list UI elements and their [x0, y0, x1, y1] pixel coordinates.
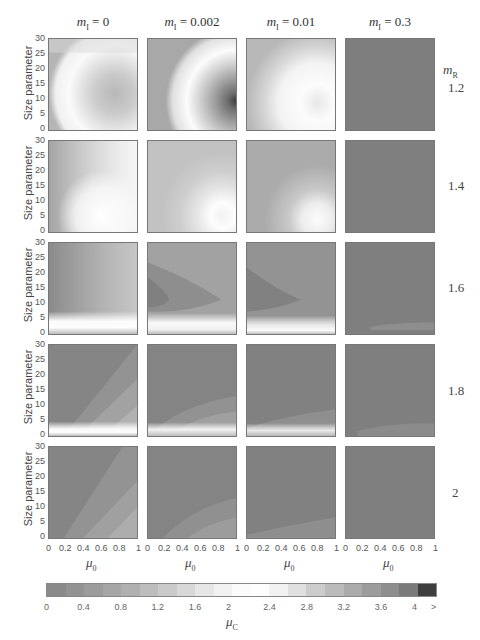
- y-tick: 10: [33, 501, 45, 511]
- x-tick: 0.8: [113, 543, 126, 553]
- m-symbol: m: [443, 62, 452, 77]
- x-tick: 0.4: [77, 543, 90, 553]
- x-tick: 1: [334, 543, 339, 553]
- contour-plot: [148, 243, 236, 334]
- panel-mr2-mi0.01: [246, 446, 336, 539]
- panel-mr1.6-mi0.01: [246, 242, 336, 335]
- column-title-mi-001: mI = 0.01: [246, 14, 336, 32]
- y-tick: 30: [33, 441, 45, 451]
- y-tick: 25: [33, 354, 45, 364]
- colorbar-swatch: [84, 584, 103, 596]
- colorbar-swatch: [103, 584, 122, 596]
- panel-mr1.6-mi0.3: [345, 242, 435, 335]
- y-tick: 15: [33, 78, 45, 88]
- y-tick: 20: [33, 63, 45, 73]
- mu-subscript: 0: [93, 564, 97, 573]
- panel-mr2-mi0.002: [147, 446, 237, 539]
- column-value: = 0.3: [381, 14, 411, 29]
- y-tick: 20: [33, 165, 45, 175]
- x-tick: 0: [244, 543, 249, 553]
- x-tick: 1: [433, 543, 438, 553]
- colorbar-swatch: [121, 584, 140, 596]
- y-tick: 20: [33, 369, 45, 379]
- panel-mr1.6-mi0.002: [147, 242, 237, 335]
- colorbar-tick: 3.2: [338, 602, 351, 612]
- x-tick: 0.6: [194, 543, 207, 553]
- colorbar-tick: 4: [412, 602, 417, 612]
- colorbar-swatch: [195, 584, 214, 596]
- colorbar-swatch: [140, 584, 159, 596]
- y-tick: 10: [33, 297, 45, 307]
- colorbar-swatch: [288, 584, 307, 596]
- contour-plot: [346, 447, 434, 538]
- y-tick: 0: [33, 225, 45, 235]
- panel-mr1.2-mi0: [48, 38, 138, 131]
- x-tick: 0.2: [356, 543, 369, 553]
- x-tick: 0.4: [374, 543, 387, 553]
- contour-plot: [346, 39, 434, 130]
- colorbar-swatch: [269, 584, 288, 596]
- colorbar-swatch: [381, 584, 400, 596]
- row-label-1-4: 1.4: [448, 178, 464, 194]
- y-tick: 10: [33, 399, 45, 409]
- contour-plot: [247, 243, 335, 334]
- colorbar-tick: 1.6: [189, 602, 202, 612]
- contour-plot: [148, 447, 236, 538]
- m-symbol: m: [164, 14, 173, 29]
- m-symbol: m: [267, 14, 276, 29]
- mu-subscript: 0: [390, 564, 394, 573]
- colorbar-swatch: [362, 584, 381, 596]
- y-tick: 15: [33, 180, 45, 190]
- y-tick: 25: [33, 150, 45, 160]
- y-tick: 30: [33, 339, 45, 349]
- x-tick: 1: [235, 543, 240, 553]
- panel-mr1.2-mi0.002: [147, 38, 237, 131]
- x-axis-label: μ0: [185, 555, 196, 573]
- y-tick: 5: [33, 210, 45, 220]
- x-tick: 0.8: [311, 543, 324, 553]
- row-label-2: 2: [452, 485, 459, 501]
- colorbar-tick: 0.4: [77, 602, 90, 612]
- contour-plot: [346, 345, 434, 436]
- contour-plot: [49, 141, 137, 232]
- row-label-1-2: 1.2: [448, 80, 464, 96]
- colorbar-swatch: [214, 584, 233, 596]
- column-value: = 0.002: [176, 14, 219, 29]
- x-tick: 0.2: [257, 543, 270, 553]
- y-tick: 5: [33, 108, 45, 118]
- colorbar-swatch: [232, 584, 251, 596]
- y-tick: 0: [33, 429, 45, 439]
- x-tick: 0.2: [158, 543, 171, 553]
- row-label-1-6: 1.6: [448, 280, 464, 296]
- x-tick: 0.4: [275, 543, 288, 553]
- colorbar-tick: 3.6: [375, 602, 388, 612]
- mr-label: mR: [443, 62, 458, 80]
- x-axis-label: μ0: [86, 555, 97, 573]
- x-tick: 1: [136, 543, 141, 553]
- panel-mr2-mi0: [48, 446, 138, 539]
- y-tick: 5: [33, 516, 45, 526]
- colorbar-tick: 2: [226, 602, 231, 612]
- panel-mr1.4-mi0.01: [246, 140, 336, 233]
- contour-plot: [247, 39, 335, 130]
- colorbar-label: μC: [226, 614, 238, 632]
- contour-plot: [346, 243, 434, 334]
- panel-mr1.4-mi0.3: [345, 140, 435, 233]
- contour-plot: [247, 141, 335, 232]
- colorbar-swatch: [251, 584, 270, 596]
- y-tick: 25: [33, 456, 45, 466]
- x-tick: 0: [343, 543, 348, 553]
- row-label-1-8: 1.8: [448, 383, 464, 399]
- panel-mr2-mi0.3: [345, 446, 435, 539]
- x-tick: 0.8: [410, 543, 423, 553]
- colorbar-tick: 2.4: [263, 602, 276, 612]
- y-tick: 30: [33, 33, 45, 43]
- m-symbol: m: [369, 14, 378, 29]
- column-value: = 0.01: [279, 14, 316, 29]
- colorbar-swatch: [418, 584, 437, 596]
- y-tick: 15: [33, 384, 45, 394]
- contour-plot: [346, 141, 434, 232]
- y-tick: 25: [33, 48, 45, 58]
- x-tick: 0: [46, 543, 51, 553]
- y-tick: 15: [33, 486, 45, 496]
